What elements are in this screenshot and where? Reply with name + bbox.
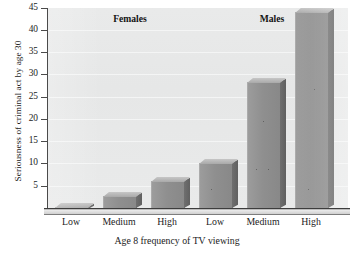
bar-top-panel [151, 177, 190, 182]
bar-females-medium [103, 196, 136, 208]
y-tick-label-15: 15 [0, 136, 38, 145]
group-label-females: Females [70, 13, 190, 24]
bar-top-panel [55, 203, 94, 208]
bar-males-high [295, 12, 328, 208]
bar-males-low [199, 163, 232, 208]
bar-top-panel [103, 192, 142, 197]
bar-top-panel [295, 8, 334, 13]
y-tick-label-10: 10 [0, 158, 38, 167]
x-axis-title: Age 8 frequency of TV viewing [0, 235, 354, 246]
bar-speck [211, 189, 212, 190]
y-axis-line [47, 8, 48, 209]
bar-face [199, 163, 233, 208]
bar-face [247, 82, 281, 208]
y-tick-25 [41, 97, 47, 98]
plot-area: Females Males [48, 8, 348, 208]
y-tick-label-20: 20 [0, 114, 38, 123]
bar-face [151, 181, 185, 208]
y-tick-40 [41, 30, 47, 31]
y-tick-35 [41, 52, 47, 53]
bar-males-medium [247, 82, 280, 208]
y-tick-10 [41, 163, 47, 164]
bar-females-high [151, 181, 184, 208]
bar-side-panel [232, 160, 238, 208]
bar-top-panel [247, 78, 286, 83]
bar-top-panel [199, 159, 238, 164]
y-tick-30 [41, 74, 47, 75]
bar-speck [256, 169, 257, 170]
y-tick-45 [41, 8, 47, 9]
x-tick-label-males-high: High [281, 216, 341, 227]
y-tick-15 [41, 141, 47, 142]
bar-side-panel [280, 79, 286, 208]
y-tick-20 [41, 119, 47, 120]
y-tick-label-30: 30 [0, 69, 38, 78]
axis-floor-slab [44, 209, 350, 215]
bar-chart: Seriousness of criminal act by age 30 Fe… [0, 0, 354, 257]
y-tick-label-5: 5 [0, 181, 38, 190]
y-tick-label-45: 45 [0, 3, 38, 12]
y-tick-label-35: 35 [0, 47, 38, 56]
bar-speck [308, 189, 309, 190]
y-tick-label-25: 25 [0, 92, 38, 101]
bar-speck [263, 121, 264, 122]
y-tick-5 [41, 186, 47, 187]
bar-face [103, 196, 137, 208]
bar-side-panel [184, 178, 190, 208]
bar-speck [268, 169, 269, 170]
bar-side-panel [328, 9, 334, 208]
bar-face [295, 12, 329, 208]
y-tick-label-40: 40 [0, 25, 38, 34]
bar-speck [314, 89, 315, 90]
